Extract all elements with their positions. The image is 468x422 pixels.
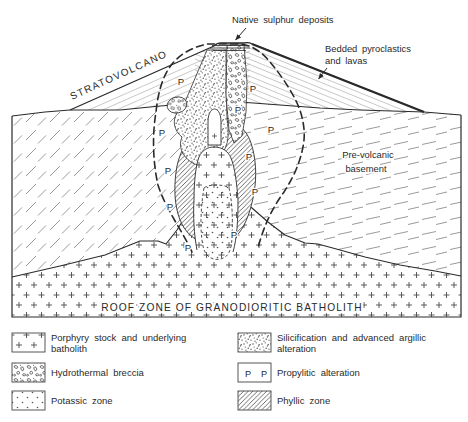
- potassic-zone: [201, 185, 232, 259]
- p-marker: P: [235, 104, 241, 115]
- legend-label-breccia: Hydrothermal breccia: [51, 367, 144, 378]
- legend-label-silicification-line2: alteration: [277, 343, 316, 354]
- geologic-cross-section-figure: P P P P P P P P P P P Native sulphur dep…: [0, 0, 468, 422]
- porphyry-dike-finger: [208, 109, 221, 145]
- legend-item-silicification: Silicification and advanced argillic alt…: [238, 332, 426, 354]
- p-marker: P: [165, 165, 171, 176]
- legend-item-potassic: Potassic zone: [12, 391, 113, 410]
- p-marker: P: [250, 83, 256, 94]
- p-marker: P: [252, 186, 258, 197]
- legend-label-propylitic: Propylitic alteration: [277, 367, 360, 378]
- geology-diagram: P P P P P P P P P P P Native sulphur dep…: [0, 0, 468, 422]
- legend-label-potassic: Potassic zone: [51, 395, 113, 406]
- p-marker: P: [178, 76, 184, 87]
- legend-label-silicification-line1: Silicification and advanced argillic: [277, 332, 426, 343]
- legend-label-porphyry-line1: Porphyry stock and underlying: [51, 332, 186, 343]
- p-marker: P: [185, 242, 191, 253]
- p-marker: P: [268, 124, 274, 135]
- legend-swatch-potassic: [12, 391, 45, 410]
- p-marker: P: [159, 127, 165, 138]
- legend-swatch-breccia: [12, 363, 45, 382]
- legend-item-propylitic: P P Propylitic alteration: [238, 363, 360, 382]
- legend-label-porphyry-line2: batholith: [51, 343, 87, 354]
- p-marker: P: [246, 151, 252, 162]
- legend-label-phyllic: Phyllic zone: [277, 395, 330, 406]
- native-sulphur-arrow: [236, 28, 247, 40]
- legend-item-breccia: Hydrothermal breccia: [12, 363, 144, 382]
- roof-zone-label: ROOF ZONE OF GRANODIORITIC BATHOLITH: [101, 302, 362, 313]
- bedded-pyroclastics-label-line1: Bedded pyroclastics: [325, 43, 411, 54]
- legend-item-porphyry: Porphyry stock and underlying batholith: [12, 332, 186, 354]
- p-marker: P: [167, 201, 173, 212]
- legend: Porphyry stock and underlying batholith …: [12, 332, 426, 410]
- legend-swatch-porphyry: [12, 333, 45, 352]
- bedded-pyroclastics-label-line2: and lavas: [325, 55, 367, 66]
- legend-swatch-p-left: P: [245, 369, 251, 379]
- legend-swatch-phyllic: [238, 391, 271, 410]
- legend-item-phyllic: Phyllic zone: [238, 391, 330, 410]
- prevolcanic-basement-label-line1: Pre-volcanic: [342, 149, 394, 160]
- native-sulphur-label: Native sulphur deposits: [232, 14, 334, 25]
- p-marker: P: [231, 229, 237, 240]
- legend-swatch-silicification: [238, 333, 271, 352]
- legend-swatch-p-right: P: [261, 369, 267, 379]
- prevolcanic-basement-label-line2: basement: [345, 163, 387, 174]
